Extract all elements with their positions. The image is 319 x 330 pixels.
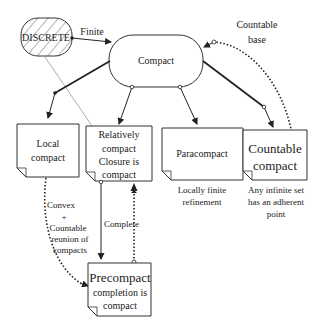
edge-finite-label: Finite xyxy=(80,26,104,37)
diagram-canvas: DISCRETE Finite Compact Countable base L… xyxy=(0,0,319,330)
edge-compact-relative xyxy=(119,87,132,124)
node-relatively-compact[interactable]: Relatively compact Closure is compact xyxy=(86,126,152,181)
node-compact[interactable]: Compact xyxy=(109,35,203,87)
node-discrete[interactable]: DISCRETE xyxy=(21,18,72,56)
node-relative-line-3: Closure is xyxy=(99,156,139,167)
node-local-compact[interactable]: Local compact xyxy=(17,124,79,177)
node-para-note-1: Locally finite xyxy=(178,185,227,195)
edge-compact-countable xyxy=(264,107,273,127)
node-countable-compact[interactable]: Countable compact xyxy=(243,130,307,180)
node-local-line-2: compact xyxy=(31,152,65,163)
node-paracompact[interactable]: Paracompact xyxy=(162,128,243,180)
edge-compact-local xyxy=(48,93,55,118)
edge-complete-label: Complete xyxy=(104,219,139,229)
node-para-note-2: refinement xyxy=(183,197,222,207)
edge-compact-para xyxy=(180,87,197,124)
node-local-line-1: Local xyxy=(37,138,60,149)
edge-convex-label-3: Countable xyxy=(50,223,87,233)
node-precompact-line-3: compact xyxy=(103,300,137,311)
discrete-to-relative-line xyxy=(45,57,92,126)
edge-convex-label-5: compacts xyxy=(53,245,87,255)
node-precompact[interactable]: Precompact completion is compact xyxy=(88,263,151,316)
node-countable-note-3: point xyxy=(267,209,286,219)
node-precompact-line-1: Precompact xyxy=(89,270,151,285)
edge-countable-base-label-2: base xyxy=(248,34,266,45)
node-para-label: Paracompact xyxy=(176,148,228,159)
edge-finite xyxy=(72,38,111,42)
node-countable-line-2: compact xyxy=(253,158,297,173)
node-countable-note-1: Any infinite set xyxy=(248,185,304,195)
node-compact-label: Compact xyxy=(138,55,174,66)
node-discrete-label: DISCRETE xyxy=(22,32,70,43)
node-precompact-line-2: completion is xyxy=(93,287,147,298)
edge-convex-label-1: Convex xyxy=(47,200,75,210)
node-relative-line-4: compact xyxy=(102,169,136,180)
edge-convex-label-4: reunion of xyxy=(51,234,88,244)
node-relative-line-1: Relatively xyxy=(98,129,139,140)
edge-convex-label-2: + xyxy=(61,212,66,222)
node-countable-line-1: Countable xyxy=(248,141,302,156)
edge-countable-base-label-1: Countable xyxy=(236,19,278,30)
node-countable-note-2: has an adherent xyxy=(248,197,304,207)
node-relative-line-2: compact xyxy=(102,143,136,154)
